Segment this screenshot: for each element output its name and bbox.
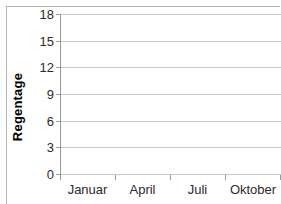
data-series-layer (60, 14, 281, 174)
x-tick-label-juli: Juli (170, 182, 225, 198)
x-tick-mark-0 (60, 175, 61, 180)
y-tick-mark-15 (56, 41, 60, 42)
x-tick-mark-4 (280, 175, 281, 180)
y-axis-title-text: Regentage (10, 52, 25, 162)
y-tick-mark-12 (56, 67, 60, 68)
y-axis-tick-labels: 18 15 12 9 6 3 0 (0, 0, 54, 204)
x-axis-tick-labels: Januar April Juli Oktober (60, 182, 281, 202)
y-tick-label-0: 0 (8, 168, 54, 181)
x-tick-mark-1 (115, 175, 116, 180)
x-tick-mark-2 (170, 175, 171, 180)
x-tick-label-januar: Januar (60, 182, 115, 198)
x-tick-label-april: April (115, 182, 170, 198)
y-tick-mark-6 (56, 121, 60, 122)
y-axis-title: Regentage (10, 0, 25, 52)
chart-figure: 18 15 12 9 6 3 0 Regentage Januar April … (0, 0, 281, 204)
y-tick-mark-18 (56, 14, 60, 15)
x-tick-mark-3 (225, 175, 226, 180)
y-axis-line (60, 14, 61, 175)
y-tick-mark-9 (56, 94, 60, 95)
x-tick-label-oktober: Oktober (225, 182, 281, 198)
y-tick-mark-3 (56, 147, 60, 148)
